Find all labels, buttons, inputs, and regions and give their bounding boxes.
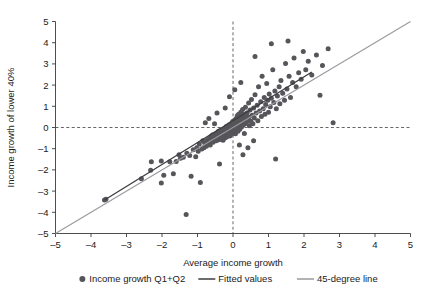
x-axis-title: Average income growth (183, 257, 283, 268)
y-tick-label: 2 (43, 80, 48, 91)
legend-label: 45-degree line (317, 273, 378, 284)
data-point (269, 41, 274, 46)
y-tick-label: –5 (38, 228, 49, 239)
x-tick-label: –2 (157, 239, 168, 250)
data-point (217, 161, 222, 166)
scatter-plot: 543210–1–2–3–4–5–5–4–3–2–1012345 Income … (0, 0, 426, 297)
data-point (238, 80, 243, 85)
data-point (193, 154, 198, 159)
data-point (306, 59, 311, 64)
data-point (251, 138, 256, 143)
data-point (227, 94, 232, 99)
y-tick-label: 1 (43, 101, 48, 112)
data-point (159, 159, 164, 164)
y-tick-label: –3 (38, 186, 49, 197)
data-point (277, 84, 282, 89)
data-point (212, 121, 217, 126)
data-point (255, 118, 260, 123)
data-point (317, 93, 322, 98)
x-tick-label: –4 (86, 239, 97, 250)
y-tick-label: 5 (43, 16, 48, 27)
chart-figure: 543210–1–2–3–4–5–5–4–3–2–1012345 Income … (0, 0, 426, 297)
data-point (198, 180, 203, 185)
chart-legend: Income growth Q1+Q2Fitted values45-degre… (79, 273, 377, 284)
x-tick-label: 4 (372, 239, 377, 250)
data-point (301, 49, 306, 54)
y-tick-label: –4 (38, 207, 49, 218)
data-point (250, 121, 255, 126)
data-point (303, 67, 308, 72)
data-point (273, 156, 278, 161)
data-point (260, 74, 265, 79)
x-tick-label: 0 (230, 239, 235, 250)
data-point (189, 174, 194, 179)
data-point (282, 98, 287, 103)
data-point (237, 142, 242, 147)
data-point (206, 116, 211, 121)
data-point (267, 92, 272, 97)
data-point (283, 61, 288, 66)
line-fitted-values (104, 72, 311, 200)
x-tick-label: –3 (121, 239, 132, 250)
data-point (223, 106, 228, 111)
data-point (245, 145, 250, 150)
data-point (253, 92, 258, 97)
x-tick-label: 1 (266, 239, 271, 250)
data-point (296, 70, 301, 75)
data-point (232, 87, 237, 92)
data-point (287, 74, 292, 79)
data-point (242, 131, 247, 136)
x-tick-label: 2 (301, 239, 306, 250)
data-point (184, 212, 189, 217)
data-point (326, 46, 331, 51)
data-point (240, 152, 245, 157)
data-point (249, 97, 254, 102)
data-point (320, 63, 325, 68)
data-point (243, 105, 248, 110)
data-point (277, 101, 282, 106)
data-point (278, 78, 283, 83)
data-point (266, 110, 271, 115)
legend-marker-circle (79, 276, 85, 282)
data-point (215, 111, 220, 116)
data-point (253, 54, 258, 59)
legend-label: Income growth Q1+Q2 (89, 273, 185, 284)
data-point (286, 39, 291, 44)
data-point (161, 173, 166, 178)
x-tick-label: 3 (337, 239, 342, 250)
data-point (270, 67, 275, 72)
data-point (256, 84, 261, 89)
data-point (314, 53, 319, 58)
data-point (264, 81, 269, 86)
data-point (272, 89, 277, 94)
x-tick-label: –5 (50, 239, 61, 250)
data-point (288, 95, 293, 100)
y-tick-label: 4 (43, 37, 48, 48)
y-tick-label: –1 (38, 143, 49, 154)
data-point (171, 171, 176, 176)
x-tick-label: –1 (192, 239, 203, 250)
x-tick-label: 5 (408, 239, 413, 250)
y-tick-label: 3 (43, 58, 48, 69)
data-point (149, 159, 154, 164)
data-point (292, 55, 297, 60)
data-point (203, 120, 208, 125)
y-tick-label: –2 (38, 164, 49, 175)
y-tick-label: 0 (43, 122, 48, 133)
legend-label: Fitted values (218, 273, 272, 284)
data-point (331, 120, 336, 125)
data-point (159, 181, 164, 186)
data-point (274, 106, 279, 111)
y-axis-title: Income growth of lower 40% (5, 67, 16, 187)
